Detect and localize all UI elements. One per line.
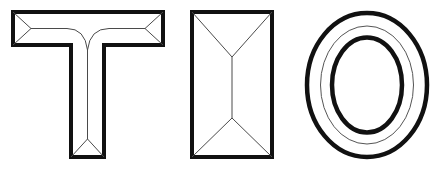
letter-o-outer-ring (307, 13, 427, 157)
letter-i-block-outline (192, 12, 272, 157)
letter-o-guide-ring (321, 26, 414, 144)
letterform-canvas (0, 0, 437, 170)
letter-o-inner-ring (332, 38, 402, 133)
letter-t-outline (13, 12, 163, 157)
letter-o-concentric-ellipses (307, 13, 427, 157)
glyph-board: Outline letter templates spelling T I O (0, 0, 437, 170)
